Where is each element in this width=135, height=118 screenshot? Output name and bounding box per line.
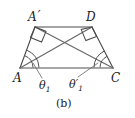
angle-label-theta-1-prime-symbol: θ	[69, 78, 76, 91]
angle-arc-c-inner	[100, 56, 107, 67]
figure-caption: (b)	[56, 98, 72, 109]
vertex-label-c: C	[111, 72, 120, 84]
vertex-label-d: D	[86, 11, 96, 23]
vertex-label-a-prime-mark: ′	[38, 9, 41, 23]
angle-label-theta-1: θ1	[39, 80, 50, 91]
leader-theta-1-prime	[78, 63, 98, 77]
geometry-figure: A′ D A C θ1 θ′1 (b)	[0, 0, 135, 118]
angle-label-theta-1-subscript: 1	[46, 85, 51, 94]
leader-theta-1	[33, 63, 42, 78]
segment-diagonal-a-d	[20, 27, 92, 68]
vertex-label-a: A	[13, 72, 22, 84]
vertex-label-c-letter: C	[111, 71, 120, 85]
vertex-label-a-prime-letter: A	[28, 10, 37, 24]
angle-label-theta-1-prime: θ′1	[69, 79, 83, 90]
angle-label-theta-1-symbol: θ	[39, 79, 46, 92]
angle-arc-a-inner	[25, 56, 33, 68]
vertex-label-d-letter: D	[86, 10, 96, 24]
angle-label-theta-1-prime-subscript: 1	[78, 84, 83, 93]
vertex-label-a-prime: A′	[28, 11, 39, 23]
vertex-label-a-letter: A	[13, 71, 22, 85]
